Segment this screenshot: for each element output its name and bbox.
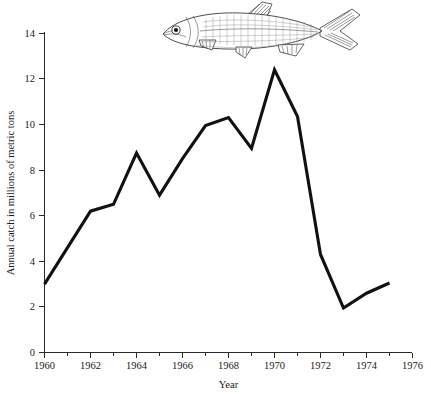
fish-anal-fin (278, 44, 304, 56)
y-tick-label: 6 (30, 210, 35, 221)
x-axis-tick-labels: 1960 1962 1964 1966 1968 1970 1972 1974 … (34, 360, 423, 371)
fish-illustration (163, 2, 360, 58)
y-tick-label: 4 (30, 256, 36, 267)
y-tick-label: 2 (30, 301, 35, 312)
y-tick-label: 10 (25, 119, 36, 130)
y-tick-label: 12 (25, 73, 36, 84)
y-axis-tick-labels: 0 2 4 6 8 10 12 14 (25, 28, 36, 358)
x-axis-ticks (45, 353, 413, 359)
data-series-line (45, 70, 390, 308)
y-tick-label: 8 (30, 165, 35, 176)
x-tick-label: 1974 (356, 360, 378, 371)
chart-canvas: 0 2 4 6 8 10 12 14 (0, 0, 431, 394)
fish-eye-pupil (174, 28, 178, 32)
x-tick-label: 1960 (34, 360, 55, 371)
chart-figure: 0 2 4 6 8 10 12 14 (0, 0, 431, 394)
x-tick-label: 1964 (126, 360, 148, 371)
y-axis-ticks (39, 33, 45, 352)
x-tick-label: 1976 (402, 360, 423, 371)
y-tick-label: 0 (30, 347, 35, 358)
x-axis-title: Year (219, 379, 239, 390)
x-tick-label: 1972 (310, 360, 331, 371)
x-tick-label: 1966 (172, 360, 193, 371)
y-axis-title: Annual catch in millions of metric tons (5, 111, 16, 275)
x-tick-label: 1968 (218, 360, 239, 371)
x-tick-label: 1970 (264, 360, 285, 371)
x-tick-label: 1962 (80, 360, 101, 371)
y-tick-label: 14 (25, 28, 36, 39)
fish-pelvic-fin (236, 47, 252, 58)
